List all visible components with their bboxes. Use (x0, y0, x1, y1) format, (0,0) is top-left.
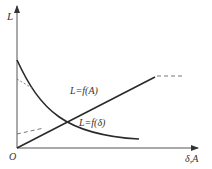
origin-label: O (9, 151, 16, 162)
dashed-low-increasing (17, 128, 44, 134)
y-axis-label: L (6, 10, 13, 22)
diagram-canvas: L O δ,A L=f(A) L=f(δ) (0, 0, 212, 169)
x-axis-label: δ,A (185, 153, 199, 164)
label-decreasing: L=f(δ) (78, 117, 106, 129)
label-increasing: L=f(A) (69, 85, 99, 97)
curve-decreasing (17, 60, 139, 139)
